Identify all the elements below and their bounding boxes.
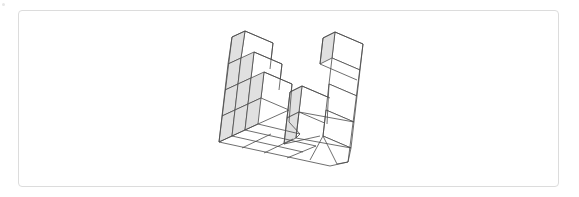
cube-edge — [258, 110, 289, 124]
cube-stack-figure — [0, 0, 579, 197]
cube-edge — [264, 139, 293, 153]
cube-edge — [242, 134, 271, 148]
cube-edge — [245, 130, 316, 146]
cube-side-face — [219, 110, 235, 142]
